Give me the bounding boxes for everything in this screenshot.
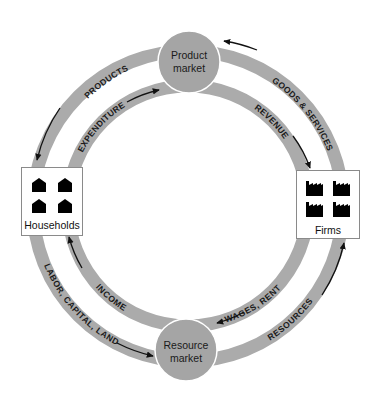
firms-label: Firms (297, 224, 359, 236)
flow-label-revenue: REVENUE (253, 102, 291, 140)
house-icon (31, 198, 47, 214)
house-icon (31, 177, 47, 193)
flow-label-resources: RESOURCES (266, 296, 315, 342)
factory-icon (306, 202, 323, 217)
firms-node: Firms (296, 170, 360, 239)
arrow-goods-services (224, 41, 257, 50)
flow-label-goods-services: GOODS & SERVICES (270, 75, 335, 152)
svg-text:market: market (173, 62, 205, 74)
households-icons (22, 177, 82, 214)
resource-market-node: Resource market (155, 319, 217, 381)
households-label: Households (22, 219, 82, 231)
house-icon (57, 177, 73, 193)
factory-icon (306, 181, 323, 196)
flow-label-income: INCOME (94, 282, 129, 313)
factory-icon (333, 181, 350, 196)
svg-text:Resource: Resource (164, 339, 209, 351)
svg-text:Product: Product (171, 49, 207, 61)
product-market-node: Product market (158, 31, 220, 93)
svg-text:market: market (170, 352, 202, 364)
flow-label-expenditure: EXPENDITURE (75, 100, 126, 154)
firms-icons (297, 181, 359, 217)
factory-icon (333, 202, 350, 217)
house-icon (57, 198, 73, 214)
households-node: Households (21, 167, 83, 236)
